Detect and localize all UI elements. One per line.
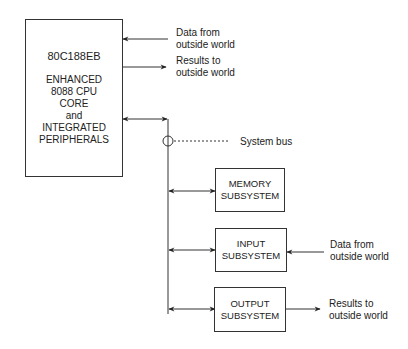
cpu-input-label: Data from outside world — [176, 27, 235, 51]
label-line: outside world — [330, 251, 389, 263]
cpu-block: 80C188EB ENHANCED 8088 CPU CORE and INTE… — [25, 19, 123, 177]
label-line: Data from — [330, 239, 389, 251]
label-line: outside world — [329, 310, 388, 322]
input-subsystem-block: INPUT SUBSYSTEM — [215, 228, 287, 272]
input-external-label: Data from outside world — [330, 239, 389, 263]
system-bus-label: System bus — [240, 136, 292, 148]
output-subsystem-block: OUTPUT SUBSYSTEM — [214, 287, 286, 332]
memory-subsystem-block: MEMORY SUBSYSTEM — [215, 168, 285, 212]
label-line: outside world — [176, 39, 235, 51]
label-line: Data from — [176, 27, 235, 39]
output-external-label: Results to outside world — [329, 298, 388, 322]
cpu-desc-line: 8088 CPU — [51, 86, 97, 98]
label-line: Results to — [329, 298, 388, 310]
label-line: outside world — [176, 67, 235, 79]
box-line: INPUT — [237, 238, 266, 250]
cpu-desc-line: INTEGRATED — [42, 122, 106, 134]
cpu-output-label: Results to outside world — [176, 55, 235, 79]
cpu-desc-line: and — [66, 110, 83, 122]
cpu-desc-line: CORE — [60, 98, 89, 110]
cpu-desc-line: PERIPHERALS — [39, 134, 109, 146]
box-line: SUBSYSTEM — [222, 250, 281, 262]
box-line: SUBSYSTEM — [221, 310, 280, 322]
box-line: MEMORY — [229, 178, 272, 190]
cpu-title: 80C188EB — [47, 50, 100, 62]
box-line: SUBSYSTEM — [221, 190, 280, 202]
box-line: OUTPUT — [230, 298, 269, 310]
label-line: Results to — [176, 55, 235, 67]
cpu-desc-line: ENHANCED — [46, 74, 102, 86]
